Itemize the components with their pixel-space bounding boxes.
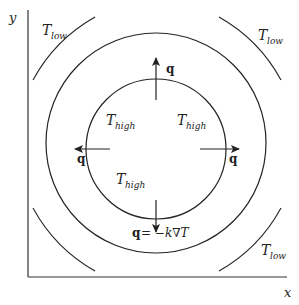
svg-text:high: high <box>115 121 135 131</box>
t-low-label-bottom-right: T low <box>261 242 286 261</box>
outer-arc-bottom-right <box>219 208 281 271</box>
svg-text:low: low <box>51 31 67 41</box>
y-axis-label: y <box>8 10 17 25</box>
outer-arc-bottom-left <box>33 208 95 271</box>
flux-label-left: q <box>77 152 86 166</box>
x-axis-label: x <box>284 285 292 300</box>
t-high-label-right: T high <box>177 112 206 131</box>
t-high-label-left: T high <box>106 112 135 131</box>
svg-text:low: low <box>270 251 286 261</box>
t-low-label-top-left: T low <box>42 22 67 41</box>
t-high-label-bottom: T high <box>116 171 145 190</box>
svg-text:q: q <box>132 226 141 240</box>
fourier-law-equation: q = −k∇T <box>132 226 190 240</box>
flux-label-up: q <box>166 62 175 76</box>
heat-flux-diagram: y x T low T low T low T high T high T hi… <box>0 0 299 305</box>
t-low-label-top-right: T low <box>258 27 283 46</box>
flux-label-right: q <box>229 152 238 166</box>
svg-text:high: high <box>125 180 145 190</box>
svg-text:= −k∇T: = −k∇T <box>141 226 190 240</box>
outer-arc-top-right <box>219 17 281 80</box>
svg-text:high: high <box>186 121 206 131</box>
svg-text:low: low <box>267 36 283 46</box>
